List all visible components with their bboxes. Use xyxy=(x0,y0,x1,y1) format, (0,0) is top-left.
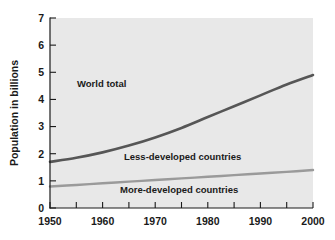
x-tick-label-1950: 1950 xyxy=(38,215,62,227)
x-tick-label-1990: 1990 xyxy=(249,215,273,227)
y-tick-label-6: 6 xyxy=(38,39,44,51)
annotation-world-total: World total xyxy=(77,78,126,89)
x-tick-label-1960: 1960 xyxy=(91,215,115,227)
x-axis-tick-labels-group: 195019601970198019902000 xyxy=(38,215,325,227)
x-tick-label-1980: 1980 xyxy=(196,215,220,227)
x-tick-label-1970: 1970 xyxy=(144,215,168,227)
annotation-more-developed: More-developed countries xyxy=(120,184,238,195)
y-tick-label-4: 4 xyxy=(38,93,44,105)
x-tick-label-2000: 2000 xyxy=(301,215,325,227)
y-tick-label-1: 1 xyxy=(38,175,44,187)
chart-canvas: 01234567 195019601970198019902000 Popula… xyxy=(0,0,335,240)
y-tick-label-3: 3 xyxy=(38,120,44,132)
y-tick-label-2: 2 xyxy=(38,148,44,160)
y-axis-tick-labels-group: 01234567 xyxy=(38,12,44,214)
population-growth-chart: 01234567 195019601970198019902000 Popula… xyxy=(0,0,335,240)
y-axis-title: Population in billions xyxy=(8,60,20,166)
y-tick-label-5: 5 xyxy=(38,66,44,78)
y-tick-label-0: 0 xyxy=(38,202,44,214)
y-tick-label-7: 7 xyxy=(38,12,44,24)
annotation-less-developed: Less-developed countries xyxy=(124,151,241,162)
